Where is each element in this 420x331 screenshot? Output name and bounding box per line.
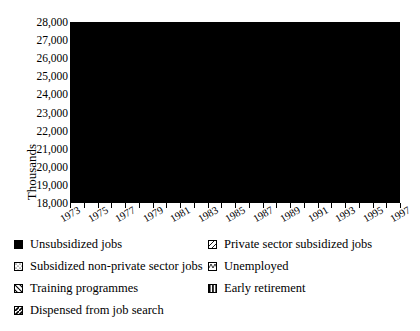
legend-label: Dispensed from job search xyxy=(30,304,164,317)
legend-item[interactable]: Subsidized non-private sector jobs xyxy=(14,260,203,273)
y-tick-label: 25,000 xyxy=(36,70,68,82)
legend-item[interactable]: Unsubsidized jobs xyxy=(14,238,122,251)
legend-label: Training programmes xyxy=(30,282,138,295)
x-tick-label: 1997 xyxy=(388,204,412,224)
x-tick-label: 1985 xyxy=(223,204,247,224)
x-tick-label: 1979 xyxy=(141,204,165,224)
y-tick-label: 23,000 xyxy=(36,107,68,119)
legend-swatch-solid-black-icon xyxy=(14,240,23,249)
legend-item[interactable]: Private sector subsidized jobs xyxy=(208,238,372,251)
legend-item[interactable]: Dispensed from job search xyxy=(14,304,164,317)
x-tick-label: 1975 xyxy=(86,204,110,224)
legend-label: Subsidized non-private sector jobs xyxy=(30,260,203,273)
x-tick-label: 1991 xyxy=(306,204,330,224)
y-axis-title: Thousands xyxy=(10,62,30,172)
legend-item[interactable]: Early retirement xyxy=(208,282,306,295)
legend-swatch-diagonal-dark-icon xyxy=(14,306,23,315)
y-tick-label: 28,000 xyxy=(36,16,68,28)
x-tick-label: 1977 xyxy=(113,204,137,224)
x-tick-label: 1989 xyxy=(278,204,302,224)
legend-swatch-dotted-icon xyxy=(14,262,23,271)
y-tick-label: 27,000 xyxy=(36,34,68,46)
y-tick-label: 19,000 xyxy=(36,179,68,191)
y-axis-tick-labels: 28,00027,00026,00025,00024,00023,00022,0… xyxy=(28,22,68,203)
x-tick-label: 1993 xyxy=(333,204,357,224)
legend-swatch-vertical-stripes-icon xyxy=(208,284,217,293)
x-tick-label: 1981 xyxy=(168,204,192,224)
legend-item[interactable]: Training programmes xyxy=(14,282,138,295)
legend-swatch-white-empty-icon xyxy=(208,262,217,271)
y-tick-label: 22,000 xyxy=(36,125,68,137)
y-tick-label: 21,000 xyxy=(36,143,68,155)
x-axis-tick-labels: 1973197519771979198119831985198719891991… xyxy=(0,208,420,236)
series-bands xyxy=(71,23,399,202)
x-tick-label: 1983 xyxy=(196,204,220,224)
y-tick-label: 24,000 xyxy=(36,88,68,100)
legend-label: Early retirement xyxy=(224,282,306,295)
legend-swatch-diagonal-thick-icon xyxy=(14,284,23,293)
series-band xyxy=(71,23,399,202)
legend-item[interactable]: Unemployed xyxy=(208,260,289,273)
stacked-area-chart: Thousands 28,00027,00026,00025,00024,000… xyxy=(0,0,420,235)
chart-page: Thousands 28,00027,00026,00025,00024,000… xyxy=(0,0,420,331)
y-tick-label: 20,000 xyxy=(36,161,68,173)
legend-label: Private sector subsidized jobs xyxy=(224,238,372,251)
plot-svg xyxy=(71,23,399,202)
legend-swatch-diagonal-hatch-icon xyxy=(208,240,217,249)
x-tick-label: 1995 xyxy=(361,204,385,224)
x-tick-label: 1973 xyxy=(58,204,82,224)
x-tick-label: 1987 xyxy=(251,204,275,224)
chart-legend: Unsubsidized jobsPrivate sector subsidiz… xyxy=(0,238,420,328)
plot-area xyxy=(70,22,400,203)
y-tick-label: 26,000 xyxy=(36,52,68,64)
legend-label: Unsubsidized jobs xyxy=(30,238,122,251)
legend-label: Unemployed xyxy=(224,260,289,273)
